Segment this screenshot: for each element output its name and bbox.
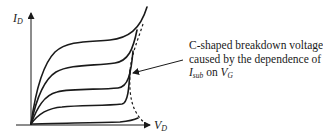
breakdown-annotation: C-shaped breakdown voltage caused by the… [189,39,323,83]
curve-5 [31,118,138,124]
x-axis-label: VD [154,119,167,135]
annotation-sub-sub: sub [193,71,203,80]
y-axis-label-sub: D [17,17,23,26]
annotation-on: on [203,66,220,78]
annotation-sub-g: G [228,71,233,80]
annotation-line-1: C-shaped breakdown voltage [189,39,323,53]
y-axis-label: ID [13,12,23,28]
annotation-pointer-arrow [133,60,183,73]
annotation-line-2: caused by the dependence of [189,53,323,67]
annotation-var-v: V [221,66,228,78]
annotation-line-3: Isub on VG [189,66,323,83]
breakdown-locus-dashed [130,24,146,124]
x-axis-label-sub: D [161,124,167,133]
